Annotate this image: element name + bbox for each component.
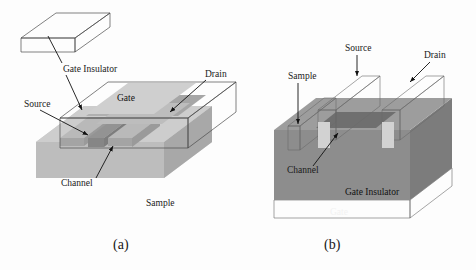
sample-front-face (36, 142, 164, 178)
source-electrode-front (60, 138, 84, 146)
label-gate-b: Gate (330, 207, 348, 217)
label-sample-a: Sample (146, 198, 175, 208)
label-gate-a: Gate (117, 93, 135, 103)
source-post-b (318, 122, 330, 148)
label-gate-insulator-b: Gate Insulator (345, 187, 400, 197)
figure-root: Gate Insulator Source Drain Gate Channel… (0, 0, 476, 270)
figure-svg: Gate Insulator Source Drain Gate Channel… (0, 0, 476, 270)
caption-b: (b) (324, 237, 341, 253)
label-source-b: Source (345, 43, 371, 53)
label-drain-b: Drain (424, 50, 446, 60)
label-drain-a: Drain (205, 69, 227, 79)
label-channel-b: Channel (287, 165, 319, 175)
label-channel-a: Channel (61, 178, 93, 188)
caption-a: (a) (113, 237, 129, 253)
label-source-a: Source (24, 99, 50, 109)
drain-post-b (382, 122, 394, 148)
drain-electrode-front (108, 138, 132, 146)
label-sample-b: Sample (288, 71, 317, 81)
channel-front (88, 138, 104, 147)
label-gate-insulator-a: Gate Insulator (63, 64, 118, 74)
